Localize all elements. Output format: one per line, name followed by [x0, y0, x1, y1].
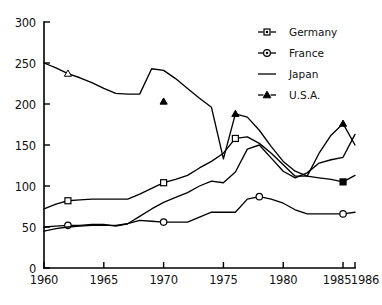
square-marker-icon — [65, 198, 71, 204]
y-tick-label: 150 — [15, 139, 36, 153]
legend-label: Germany — [289, 26, 337, 38]
x-tick-label: 1980 — [269, 273, 297, 287]
y-tick-label: 200 — [15, 98, 36, 112]
square-marker-icon — [340, 179, 346, 185]
chart-background — [0, 0, 382, 305]
square-marker-icon — [232, 135, 238, 141]
x-tick-label: 1960 — [30, 273, 58, 287]
circle-marker-icon — [160, 219, 166, 225]
circle-marker-icon — [340, 211, 346, 217]
y-tick-label: 100 — [15, 180, 36, 194]
y-tick-label: 300 — [15, 16, 36, 30]
x-tick-label: 1970 — [149, 273, 177, 287]
x-tick-label: 1965 — [90, 273, 118, 287]
y-tick-label: 250 — [15, 57, 36, 71]
y-tick-label: 50 — [22, 221, 36, 235]
circle-marker-icon — [256, 193, 262, 199]
x-tick-label: 1985 — [323, 273, 351, 287]
legend-label: Japan — [288, 68, 318, 80]
square-marker-icon — [161, 180, 167, 186]
x-tick-label: 1986 — [351, 273, 379, 287]
x-tick-label: 1975 — [209, 273, 237, 287]
legend-label: France — [289, 47, 324, 59]
chart-canvas: 050100150200250300 196019651970197519801… — [0, 0, 382, 305]
line-chart: 050100150200250300 196019651970197519801… — [0, 0, 382, 305]
legend-label: U.S.A. — [289, 89, 320, 101]
